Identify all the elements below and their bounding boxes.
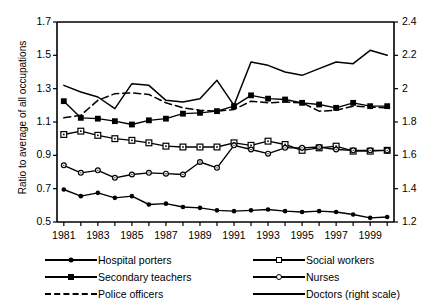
series-marker	[199, 161, 200, 162]
legend-item-label: Hospital porters	[98, 254, 172, 266]
y-axis-label-right: 1.6	[402, 148, 438, 160]
series-marker	[216, 146, 218, 148]
legend-item-label: Nurses	[306, 271, 339, 283]
series-marker	[198, 206, 203, 211]
series-marker	[350, 100, 356, 106]
series-marker	[182, 146, 184, 148]
series-marker	[80, 172, 81, 173]
legend-marker-icon	[69, 258, 74, 263]
series-doctors-right-scale	[64, 50, 387, 108]
chart-figure: Ratio to average of all occupations 0.50…	[0, 0, 438, 308]
series-marker	[199, 146, 201, 148]
series-marker	[352, 150, 353, 151]
legend-item[interactable]: Doctors (right scale)	[253, 286, 400, 302]
y-axis-label-right: 2	[402, 82, 438, 94]
series-marker	[182, 174, 183, 175]
series-marker	[250, 149, 251, 150]
series-marker	[386, 150, 387, 151]
legend-item-label: Police officers	[98, 288, 163, 300]
series-marker	[267, 140, 269, 142]
series-marker	[267, 153, 268, 154]
series-marker	[146, 117, 152, 123]
legend-item[interactable]: Hospital porters	[45, 252, 172, 268]
y-axis-label-right: 2.2	[402, 48, 438, 60]
series-marker	[283, 209, 288, 214]
y-axis-label-right: 1.4	[402, 182, 438, 194]
series-marker	[181, 205, 186, 210]
y-axis-label-left: 0.5	[9, 215, 51, 227]
series-marker	[165, 173, 166, 174]
series-marker	[79, 194, 84, 199]
plot-area	[0, 0, 438, 250]
series-marker	[248, 92, 254, 98]
series-marker	[318, 146, 319, 147]
legend-item[interactable]: Police officers	[45, 286, 163, 302]
legend-item[interactable]: Secondary teachers	[45, 269, 191, 285]
series-marker	[114, 138, 116, 140]
legend-swatch-icon	[253, 287, 305, 301]
y-axis-label-right: 1.2	[402, 215, 438, 227]
series-marker	[148, 142, 150, 144]
y-axis-label-left: 1.1	[9, 115, 51, 127]
series-marker	[95, 116, 101, 122]
legend-line-icon	[253, 293, 305, 295]
legend-swatch-icon	[253, 253, 305, 267]
series-marker	[368, 216, 373, 221]
series-marker	[131, 140, 133, 142]
legend-item[interactable]: Nurses	[253, 269, 339, 285]
series-marker	[131, 174, 132, 175]
legend-swatch-icon	[45, 287, 97, 301]
series-marker	[97, 170, 98, 171]
series-marker	[385, 215, 390, 220]
series-hospital-porters	[64, 190, 387, 218]
series-marker	[163, 116, 169, 122]
series-marker	[300, 210, 305, 215]
y-axis-label-right: 1.8	[402, 115, 438, 127]
legend-marker-icon	[68, 274, 74, 280]
y-axis-label-left: 0.7	[9, 182, 51, 194]
legend-marker-icon	[276, 274, 282, 280]
legend-swatch-icon	[45, 270, 97, 284]
legend-item-label: Social workers	[306, 254, 374, 266]
series-marker	[165, 145, 167, 147]
series-marker	[334, 210, 339, 215]
series-marker	[96, 191, 101, 196]
legend-swatch-icon	[45, 253, 97, 267]
series-marker	[112, 118, 118, 124]
series-marker	[369, 150, 370, 151]
chart-legend: Hospital portersSecondary teachersPolice…	[0, 252, 438, 308]
series-marker	[316, 102, 322, 108]
legend-item-label: Secondary teachers	[98, 271, 191, 283]
series-line	[64, 190, 387, 218]
series-marker	[351, 212, 356, 217]
series-marker	[232, 209, 237, 214]
series-marker	[63, 165, 64, 166]
legend-item[interactable]: Social workers	[253, 252, 374, 268]
legend-item-label: Doctors (right scale)	[306, 288, 400, 300]
series-marker	[62, 187, 67, 192]
series-line	[64, 50, 387, 108]
series-marker	[80, 130, 82, 132]
series-marker	[113, 196, 118, 201]
series-marker	[114, 177, 115, 178]
series-marker	[284, 147, 285, 148]
series-marker	[216, 167, 217, 168]
y-axis-label-left: 1.5	[9, 48, 51, 60]
series-marker	[63, 134, 65, 136]
y-axis-label-left: 1.3	[9, 82, 51, 94]
series-marker	[129, 122, 135, 128]
series-marker	[266, 207, 271, 212]
series-marker	[97, 135, 99, 137]
series-marker	[215, 208, 220, 213]
series-marker	[61, 98, 67, 104]
series-marker	[147, 202, 152, 207]
y-axis-label-right: 2.4	[402, 15, 438, 27]
legend-swatch-icon	[253, 270, 305, 284]
series-marker	[250, 145, 252, 147]
series-marker	[130, 194, 135, 199]
legend-marker-icon	[276, 257, 282, 263]
series-marker	[164, 201, 169, 206]
series-marker	[180, 111, 186, 117]
series-marker	[265, 96, 271, 102]
series-marker	[301, 147, 302, 148]
